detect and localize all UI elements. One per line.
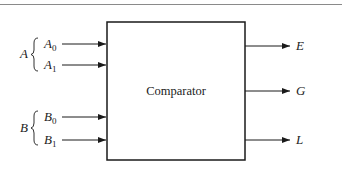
svg-text:B0: B0: [44, 109, 57, 126]
output-l: L: [245, 132, 303, 147]
group-b-label: B: [20, 120, 28, 135]
svg-text:A1: A1: [43, 57, 56, 74]
comparator-diagram: Comparator A A0 A1 B B0 B1 E G: [0, 0, 342, 172]
input-group-b: B B0 B1: [20, 109, 106, 149]
output-g: G: [245, 83, 306, 98]
output-g-label: G: [296, 83, 306, 98]
input-b1: B1: [44, 132, 106, 149]
input-a1: A1: [43, 57, 106, 74]
output-e-label: E: [295, 38, 304, 53]
output-l-label: L: [295, 132, 303, 147]
output-e: E: [245, 38, 304, 53]
svg-text:A0: A0: [43, 36, 57, 53]
input-b0: B0: [44, 109, 106, 126]
comparator-label: Comparator: [146, 84, 207, 98]
svg-text:B1: B1: [44, 132, 56, 149]
group-a-label: A: [19, 46, 28, 61]
input-a0: A0: [43, 36, 106, 53]
input-group-a: A A0 A1: [19, 36, 106, 74]
brace-a-icon: [31, 38, 38, 71]
brace-b-icon: [31, 111, 38, 145]
